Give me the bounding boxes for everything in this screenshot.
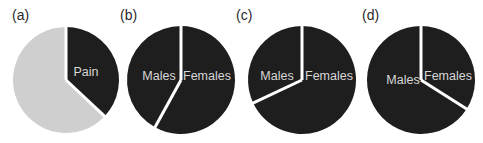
slice-label-pain: Pain <box>73 65 98 79</box>
pie-a: Pain <box>13 25 119 133</box>
slice-label-males: Males <box>386 73 419 87</box>
slice-label-females: Females <box>305 69 353 83</box>
pie-b: FemalesMales <box>127 24 235 134</box>
slice-label-females: Females <box>424 69 472 83</box>
slice-label-males: Males <box>260 69 293 83</box>
slice-label-females: Females <box>183 69 231 83</box>
pie-d: FemalesMales <box>367 24 475 134</box>
slice-label-males: Males <box>142 69 175 83</box>
pie-charts: PainFemalesMalesFemalesMalesFemalesMales <box>0 0 483 143</box>
pie-c: FemalesMales <box>248 24 356 134</box>
